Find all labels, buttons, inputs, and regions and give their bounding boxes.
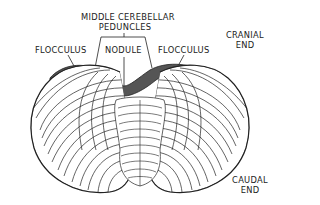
label-flocculus-right: FLOCCULUS — [158, 45, 210, 55]
label-mcp-line1: MIDDLE CEREBELLAR — [81, 12, 169, 22]
label-mcp-line2: PEDUNCLES — [81, 22, 169, 32]
label-nodule: NODULE — [105, 45, 142, 55]
label-cranial-end: CRANIAL END — [222, 30, 268, 50]
label-caudal-line2: END — [228, 185, 272, 195]
label-caudal-line1: CAUDAL — [228, 175, 272, 185]
label-middle-cerebellar-peduncles: MIDDLE CEREBELLAR PEDUNCLES — [81, 12, 169, 32]
label-cranial-line2: END — [222, 40, 268, 50]
label-caudal-end: CAUDAL END — [228, 175, 272, 195]
label-flocculus-left: FLOCCULUS — [35, 45, 87, 55]
label-cranial-line1: CRANIAL — [222, 30, 268, 40]
